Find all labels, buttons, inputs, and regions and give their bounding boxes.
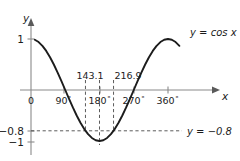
- plot-svg: y x 1 −0.8 −1 0 90 ° 180 ° 270 ° 360 ° 1…: [0, 0, 240, 161]
- x-tick-degree-360: °: [175, 95, 178, 103]
- x-tick-degree-180: °: [107, 95, 110, 103]
- x-tick-label-90-group: 90 °: [55, 95, 71, 107]
- x-axis-arrow-icon: [212, 87, 220, 94]
- hline-equation-label: y = −0.8: [186, 126, 232, 137]
- intersection-label-143: 143.1: [76, 70, 103, 81]
- x-tick-degree-90: °: [68, 95, 71, 103]
- x-tick-label-360-group: 360 °: [156, 95, 178, 107]
- x-tick-label-180: 180: [88, 95, 106, 106]
- x-tick-label-270: 270: [122, 95, 140, 106]
- curve-equation-label: y = cos x: [189, 27, 237, 38]
- x-tick-label-180-group: 180 °: [88, 95, 110, 107]
- cosine-graph-figure: y x 1 −0.8 −1 0 90 ° 180 ° 270 ° 360 ° 1…: [0, 0, 240, 161]
- x-tick-label-0: 0: [28, 95, 34, 106]
- x-tick-label-360: 360: [156, 95, 174, 106]
- x-tick-degree-270: °: [141, 95, 144, 103]
- y-tick-label-neg1: −1: [9, 136, 24, 148]
- intersection-label-217: 216.9: [114, 70, 141, 81]
- y-tick-label-1: 1: [17, 33, 24, 45]
- x-axis-label: x: [221, 90, 229, 102]
- x-tick-label-270-group: 270 °: [122, 95, 144, 107]
- x-tick-label-90: 90: [55, 95, 67, 106]
- y-axis-label: y: [22, 12, 30, 24]
